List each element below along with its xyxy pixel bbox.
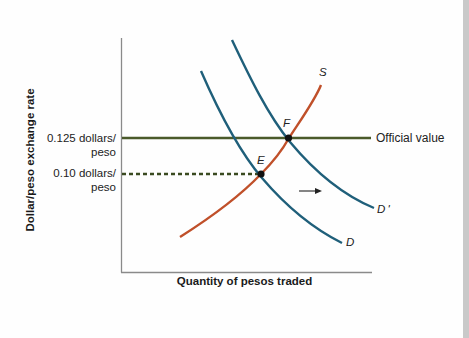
demand-label-d-prime: D ': [377, 203, 390, 215]
y-axis-label: Dollar/peso exchange rate: [24, 88, 36, 231]
tick-label-010-line1: 0.10 dollars/: [53, 166, 116, 180]
tick-label-0125-line2: peso: [47, 145, 116, 159]
tick-label-010: 0.10 dollars/ peso: [53, 166, 116, 194]
x-axis-label: Quantity of pesos traded: [0, 275, 469, 287]
point-e-label: E: [257, 154, 265, 166]
tick-label-010-line2: peso: [53, 180, 116, 194]
demand-curve-d: [201, 71, 342, 243]
shift-arrowhead-icon: [315, 188, 322, 194]
tick-label-0125-line1: 0.125 dollars/: [47, 131, 116, 145]
point-f-marker: [285, 134, 292, 141]
point-e-marker: [257, 170, 264, 177]
point-f-label: F: [283, 117, 290, 129]
demand-label-d: D: [346, 236, 354, 248]
supply-label-s: S: [319, 66, 327, 78]
official-value-label: Official value: [376, 131, 444, 145]
tick-label-0125: 0.125 dollars/ peso: [47, 131, 116, 159]
